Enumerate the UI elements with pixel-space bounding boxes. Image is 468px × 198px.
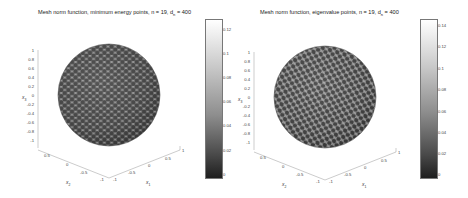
- colorbar-tick: 0.1: [223, 51, 229, 56]
- x1-label-sub: 1: [148, 183, 150, 187]
- colorbar-tick: 0.08: [438, 87, 446, 92]
- x1-tick: 0.5: [381, 158, 387, 163]
- colorbar-tick: 0.06: [223, 99, 231, 104]
- x1-axis-label: x1: [146, 180, 150, 187]
- x1-tick: 1: [398, 150, 400, 155]
- z-tick: 1: [20, 48, 34, 53]
- z-tick: 0.6: [236, 68, 250, 73]
- z-tick: -0.4: [236, 113, 250, 118]
- x1-tick: -0.5: [128, 170, 135, 175]
- colorbar-tick: 0.04: [223, 123, 231, 128]
- right-figure: Mesh norm function, eigenvalue points, n…: [234, 0, 468, 198]
- x2-tick: 0: [282, 164, 284, 169]
- x1-tick: 1: [182, 148, 184, 153]
- z-tick: -0.6: [20, 120, 34, 125]
- z-tick: -0.2: [20, 102, 34, 107]
- x2-axis-label: x2: [282, 182, 286, 189]
- colorbar-tick: 0.12: [438, 44, 446, 49]
- z-axis-label: x3: [238, 97, 242, 104]
- x1-axis-label: x1: [362, 182, 366, 189]
- z-tick: -0.4: [20, 111, 34, 116]
- x2-tick: 0.5: [260, 155, 266, 160]
- x1-tick: -1: [113, 177, 117, 182]
- x2-tick: -0.5: [296, 172, 303, 177]
- x1-tick: 0: [364, 165, 366, 170]
- z-tick: -0.2: [236, 104, 250, 109]
- x2-tick: 0: [66, 162, 68, 167]
- right-sphere: [274, 46, 376, 148]
- x1-tick: 0: [148, 163, 150, 168]
- z-tick: 1: [236, 50, 250, 55]
- x2-tick: -1: [316, 179, 320, 184]
- x2-tick: -0.5: [80, 170, 87, 175]
- z-tick: -0.8: [20, 129, 34, 134]
- x2-label-sub: 2: [284, 185, 286, 189]
- z-tick: 0.6: [20, 66, 34, 71]
- colorbar-tick: 0.08: [223, 75, 231, 80]
- colorbar-tick: 0.06: [438, 109, 446, 114]
- colorbar-tick: 0: [438, 172, 440, 177]
- colorbar-tick: 0.1: [438, 66, 444, 71]
- z-tick: -0.8: [236, 131, 250, 136]
- colorbar-tick: 0: [223, 172, 225, 177]
- x1-tick: -0.5: [344, 172, 351, 177]
- colorbar-tick: 0.04: [438, 130, 446, 135]
- left-colorbar: [205, 19, 223, 179]
- x2-tick: 0.5: [44, 153, 50, 158]
- x2-tick: -1: [100, 177, 104, 182]
- z-axis-label: x3: [22, 95, 26, 102]
- x2-label-sub: 2: [68, 183, 70, 187]
- x1-label-sub: 1: [364, 185, 366, 189]
- z-tick: -1: [236, 140, 250, 145]
- left-sphere: [58, 44, 160, 146]
- z-tick: 0.2: [20, 84, 34, 89]
- colorbar-tick: 0.02: [438, 151, 446, 156]
- z-tick: 0.2: [236, 86, 250, 91]
- colorbar-tick: 0.14: [438, 23, 446, 28]
- right-colorbar: [420, 19, 438, 179]
- x2-axis-label: x2: [66, 180, 70, 187]
- x1-tick: -1: [329, 179, 333, 184]
- z-tick: 0.4: [20, 75, 34, 80]
- z-label-sub: 3: [240, 100, 242, 104]
- left-figure: Mesh norm function, minimum energy point…: [0, 0, 234, 198]
- left-plot-area: [0, 0, 234, 198]
- colorbar-tick: 0.02: [223, 148, 231, 153]
- z-tick: 0.4: [236, 77, 250, 82]
- z-tick: -1: [20, 138, 34, 143]
- z-tick: -0.6: [236, 122, 250, 127]
- z-tick: 0.8: [236, 59, 250, 64]
- colorbar-tick: 0.12: [223, 27, 231, 32]
- x1-tick: 0.5: [165, 156, 171, 161]
- z-tick: 0.8: [20, 57, 34, 62]
- z-label-sub: 3: [24, 98, 26, 102]
